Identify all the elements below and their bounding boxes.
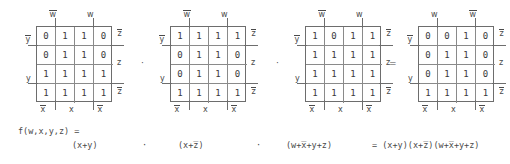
kmap-cell[interactable]: 1 (457, 46, 476, 65)
kmap-cell[interactable]: 1 (363, 65, 382, 84)
kmap-cell[interactable]: 1 (306, 27, 325, 46)
group-divider (475, 18, 476, 28)
kmap-cell[interactable]: 1 (190, 65, 209, 84)
kmap-4-bottom-label-1: x (422, 105, 428, 114)
kmap-cell[interactable]: 1 (56, 84, 75, 103)
kmap-cell[interactable]: 1 (438, 84, 457, 103)
kmap-3-bottom-label-1: x (309, 105, 315, 114)
kmap-cell[interactable]: 0 (419, 27, 438, 46)
kmap-cell[interactable]: 0 (476, 46, 495, 65)
kmap-cell[interactable]: 1 (363, 27, 382, 46)
kmap-cell[interactable]: 1 (363, 84, 382, 103)
kmap-cell[interactable]: 1 (75, 27, 94, 46)
kmap-cell[interactable]: 0 (37, 46, 56, 65)
kmap-cell[interactable]: 1 (94, 84, 113, 103)
kmap-cell[interactable]: 1 (325, 46, 344, 65)
kmap-4-top-label-2: w (469, 10, 477, 19)
kmap-3-right-label-1-text: z (386, 29, 391, 38)
kmap-cell[interactable]: 0 (94, 46, 113, 65)
group-divider (244, 45, 258, 46)
kmap-cell[interactable]: 0 (37, 27, 56, 46)
kmap-4-right-label-1: z (499, 29, 504, 38)
kmap-2-left-label-2: y (160, 74, 165, 83)
kmap-cell[interactable]: 1 (56, 46, 75, 65)
kmap-cell[interactable]: 1 (171, 84, 190, 103)
kmap-3-top-label-2: w (356, 10, 363, 19)
kmap-4-top-label-2-text: w (469, 10, 477, 19)
kmap-1: 0110011011111111wwxxxyyzzz (18, 4, 130, 118)
kmap-cell[interactable]: 1 (56, 27, 75, 46)
kmap-cell[interactable]: 1 (37, 84, 56, 103)
kmap-1-left-label-1: y (25, 35, 31, 44)
kmap-cell[interactable]: 0 (228, 46, 247, 65)
kmap-cell[interactable]: 0 (419, 46, 438, 65)
kmap-cell[interactable]: 0 (171, 65, 190, 84)
group-divider (227, 18, 228, 28)
kmap-cell[interactable]: 1 (228, 84, 247, 103)
kmap-row: 0110011011111111wwxxxyyzzz11110110011011… (0, 0, 500, 122)
kmap-cell[interactable]: 1 (190, 27, 209, 46)
kmap-1-top-label-1: w (49, 10, 57, 19)
kmap-cell[interactable]: 1 (363, 46, 382, 65)
kmap-cell[interactable]: 1 (438, 46, 457, 65)
kmap-cell[interactable]: 1 (457, 84, 476, 103)
kmap-1-inner: 0110011011111111wwxxxyyzzz (18, 4, 130, 118)
kmap-3-top-label-1: w (318, 10, 326, 19)
group-divider (324, 18, 325, 28)
kmap-cell[interactable]: 0 (325, 27, 344, 46)
kmap-cell[interactable]: 1 (37, 65, 56, 84)
kmap-cell[interactable]: 1 (190, 84, 209, 103)
kmap-cell[interactable]: 1 (325, 65, 344, 84)
kmap-3-bottom-label-3-text: x (366, 105, 372, 114)
kmap-cell[interactable]: 0 (228, 65, 247, 84)
kmap-1-left-label-2: y (26, 74, 31, 83)
kmap-cell[interactable]: 1 (344, 46, 363, 65)
equation-term-3: (w+x̅+y+z) (286, 140, 332, 150)
kmap-2-top-label-1: w (183, 10, 191, 19)
kmap-cell[interactable]: 1 (306, 65, 325, 84)
kmap-cell[interactable]: 0 (94, 27, 113, 46)
kmap-cell[interactable]: 1 (209, 65, 228, 84)
kmap-3-right-label-1: z (386, 29, 391, 38)
equation: f(w,x,y,z) = (x+y) · (x+z̅) · (w+x̅+y+z)… (0, 122, 500, 164)
kmap-cell[interactable]: 1 (75, 46, 94, 65)
kmap-cell[interactable]: 1 (344, 84, 363, 103)
kmap-cell[interactable]: 1 (209, 84, 228, 103)
kmap-cell[interactable]: 1 (344, 65, 363, 84)
group-divider (110, 45, 124, 46)
kmap-cell[interactable]: 0 (419, 65, 438, 84)
group-divider (437, 100, 438, 110)
kmap-cell[interactable]: 0 (476, 65, 495, 84)
kmap-cell[interactable]: 1 (457, 65, 476, 84)
kmap-cell[interactable]: 1 (438, 65, 457, 84)
kmap-cell[interactable]: 1 (190, 46, 209, 65)
kmap-cell[interactable]: 1 (476, 84, 495, 103)
kmap-cell[interactable]: 1 (94, 65, 113, 84)
kmap-4: 0010011001101111wwxxxyyzzz (400, 4, 510, 118)
kmap-cell[interactable]: 1 (209, 46, 228, 65)
kmap-cell[interactable]: 1 (75, 84, 94, 103)
kmap-cell[interactable]: 0 (438, 27, 457, 46)
kmap-cell[interactable]: 1 (209, 27, 228, 46)
kmap-cell[interactable]: 1 (457, 27, 476, 46)
kmap-2-left-label-1: y (159, 35, 165, 44)
kmap-cell[interactable]: 0 (171, 46, 190, 65)
kmap-cell[interactable]: 1 (171, 27, 190, 46)
kmap-cell[interactable]: 0 (476, 27, 495, 46)
kmap-cell[interactable]: 1 (228, 27, 247, 46)
group-divider (475, 100, 476, 110)
kmap-cell[interactable]: 1 (419, 84, 438, 103)
kmap-cell[interactable]: 1 (56, 65, 75, 84)
kmap-4-bottom-label-2: x (451, 105, 456, 114)
kmap-cell[interactable]: 1 (325, 84, 344, 103)
kmap-cell[interactable]: 1 (306, 84, 325, 103)
kmap-cell[interactable]: 1 (75, 65, 94, 84)
kmap-2-bottom-label-3-text: x (231, 105, 237, 114)
group-divider (297, 83, 307, 84)
kmap-2-bottom-label-3: x (231, 105, 237, 114)
kmap-cell[interactable]: 1 (306, 46, 325, 65)
kmap-cell[interactable]: 1 (344, 27, 363, 46)
kmap-3-left-label-1-text: y (294, 35, 300, 44)
kmap-2-grid: 1111011001101111 (170, 26, 246, 102)
group-divider (379, 83, 393, 84)
